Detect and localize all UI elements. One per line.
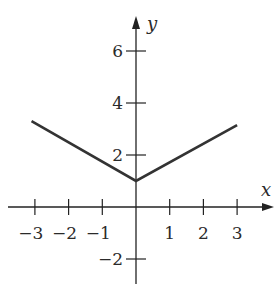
y-axis-label: y (146, 13, 158, 34)
x-tick-label: 2 (198, 223, 209, 243)
x-tick-label: 1 (164, 223, 175, 243)
x-tick-label: 3 (232, 223, 243, 243)
chart: −3−2−1123−2246xy (0, 0, 277, 284)
y-tick-label: 4 (112, 93, 123, 113)
x-tick-label: −3 (18, 223, 43, 243)
x-axis-arrow-icon (262, 203, 274, 211)
plot-area: −3−2−1123−2246xy (0, 0, 277, 284)
x-tick-label: −2 (52, 223, 77, 243)
y-tick-label: −2 (98, 249, 123, 269)
x-axis-label: x (261, 179, 271, 200)
x-tick-label: −1 (86, 223, 111, 243)
y-tick-label: 6 (112, 41, 123, 61)
y-tick-label: 2 (112, 145, 123, 165)
y-axis-arrow-icon (132, 16, 140, 29)
graph-line (32, 121, 238, 181)
